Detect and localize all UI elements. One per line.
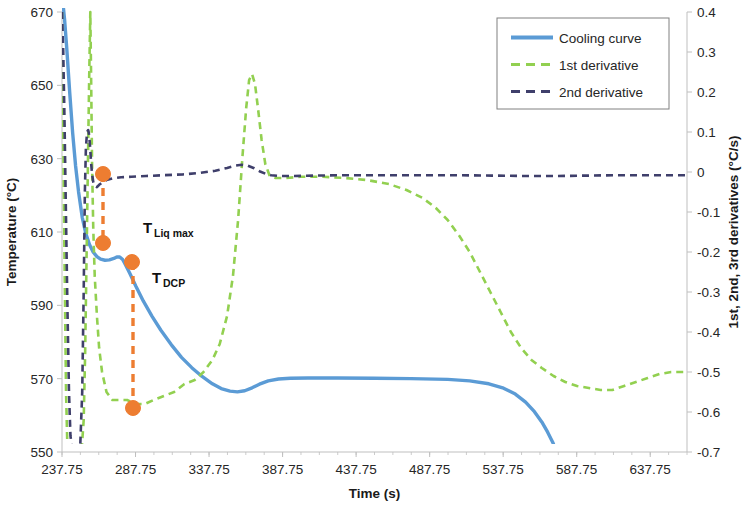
y-axis-right-tick-label: 0.3 [697,45,716,60]
y-axis-left-tick-label: 650 [30,78,53,93]
series-line-cooling-curve [62,0,556,452]
x-axis-title: Time (s) [349,486,401,501]
x-axis-tick-label: 537.75 [483,462,524,477]
y-axis-left-tick-label: 570 [30,372,53,387]
y-axis-right-tick-label: 0 [697,165,705,180]
x-axis-tick-label: 287.75 [115,462,156,477]
y-axis-right-tick-label: -0.6 [697,405,720,420]
y-axis-right-tick-label: -0.5 [697,365,720,380]
annotation-label-main-t-liq-max: T [143,219,152,236]
marker-t-liq-max [96,236,111,251]
x-axis-tick-label: 387.75 [262,462,303,477]
x-axis-tick-label: 237.75 [41,462,82,477]
y-axis-left-title: Temperature (°C) [4,178,19,287]
x-axis-tick-label: 587.75 [556,462,597,477]
chart-canvas: 5505705906106306506700.40.30.20.10-0.1-0… [0,0,749,510]
legend-label-1: 1st derivative [559,58,639,73]
y-axis-right-tick-label: -0.4 [697,325,721,340]
annotation-label-sub-t-dcp: DCP [163,277,185,289]
y-axis-right-tick-label: 0.4 [697,5,716,20]
y-axis-right-tick-label: -0.7 [697,445,720,460]
y-axis-right-title: 1st, 2nd, 3rd derivatives (°C/s) [726,136,741,329]
annotation-label-main-t-dcp: T [152,269,161,286]
x-axis-tick-label: 487.75 [409,462,450,477]
annotation-t-liq-max: TLiq max [143,219,194,239]
y-axis-left-tick-label: 670 [30,5,53,20]
y-axis-right-tick-label: -0.1 [697,205,720,220]
annotation-label-sub-t-liq-max: Liq max [154,227,194,239]
x-axis-tick-label: 337.75 [188,462,229,477]
cooling-curve-chart: 5505705906106306506700.40.30.20.10-0.1-0… [0,0,749,510]
marker-marker-second-derivative [96,167,111,182]
y-axis-right-tick-label: 0.1 [697,125,716,140]
x-axis-tick-label: 437.75 [335,462,376,477]
y-axis-right-tick-label: 0.2 [697,85,716,100]
legend: Cooling curve1st derivative2nd derivativ… [497,18,669,109]
y-axis-left-tick-label: 590 [30,298,53,313]
y-axis-left-tick-label: 610 [30,225,53,240]
y-axis-left-tick-label: 630 [30,152,53,167]
annotation-t-dcp: TDCP [152,269,185,289]
y-axis-left-tick-label: 550 [30,445,53,460]
y-axis-right-tick-label: -0.2 [697,245,720,260]
marker-marker-first-derivative-min [126,401,141,416]
x-axis-tick-label: 637.75 [630,462,671,477]
legend-label-2: 2nd derivative [559,85,643,100]
y-axis-right-tick-label: -0.3 [697,285,720,300]
legend-label-0: Cooling curve [559,31,642,46]
marker-t-dcp [125,255,140,270]
